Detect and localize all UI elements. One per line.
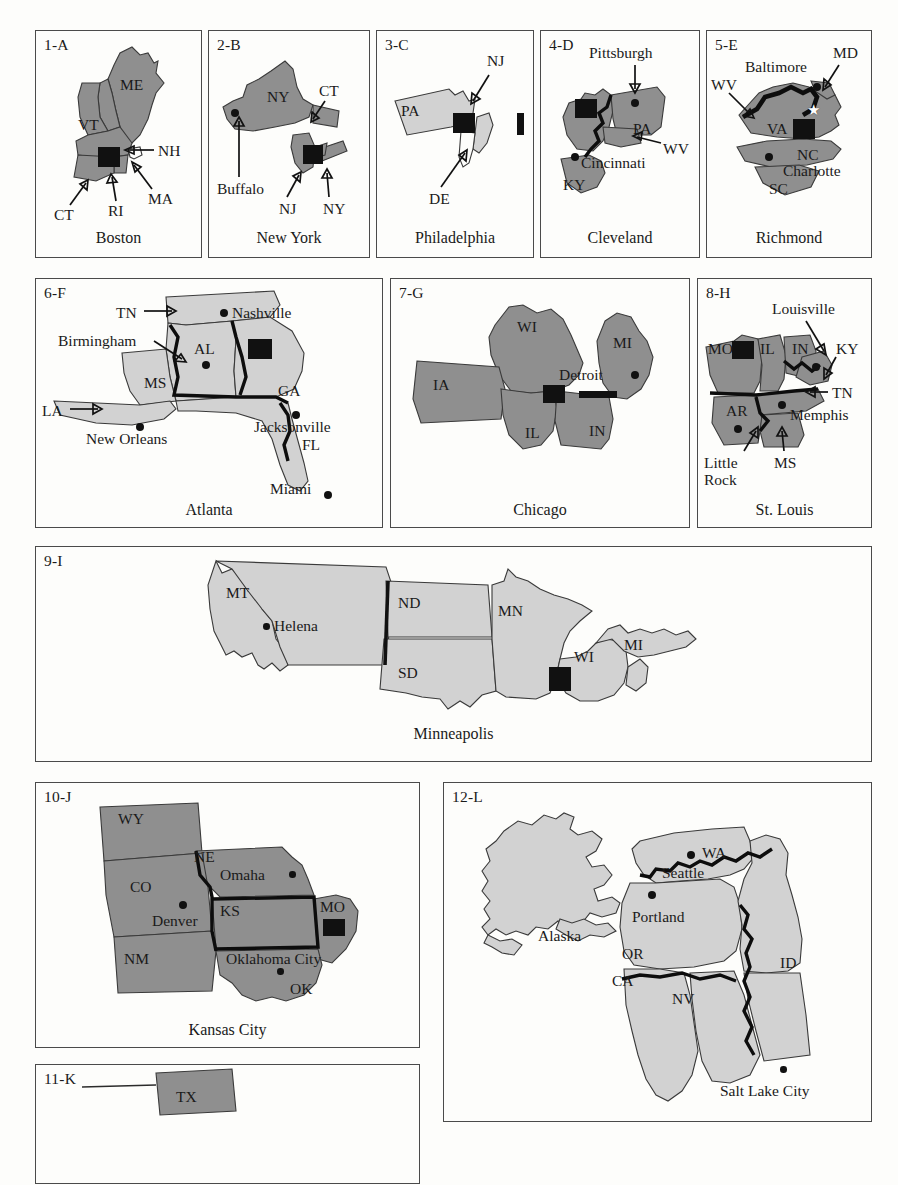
city-dot-cincinnati	[571, 153, 579, 161]
state-label-mi: MI	[624, 637, 643, 653]
state-label-nj: NJ	[487, 53, 504, 69]
state-label-mn: MN	[498, 603, 523, 619]
state-label-il: IL	[525, 425, 540, 441]
metro-marker	[303, 145, 323, 164]
metro-marker	[453, 113, 475, 133]
state-label-ky: KY	[563, 177, 585, 193]
city-label-jacksonville: Jacksonville	[254, 419, 331, 435]
state-label-sc: SC	[769, 181, 788, 197]
panel-caption: Minneapolis	[36, 725, 871, 743]
panel-12-l: 12-L	[443, 782, 872, 1122]
city-label-baltimore: Baltimore	[745, 59, 807, 75]
state-label-mt: MT	[226, 585, 249, 601]
map-graphic: TN Nashville Birmingham AL MS GA LA New …	[36, 279, 382, 527]
city-label-seattle: Seattle	[662, 865, 704, 881]
panel-9-i: 9-I MT ND MN Hele	[35, 546, 872, 762]
state-label-nm: NM	[124, 951, 149, 967]
state-label-ny-2: NY	[323, 201, 345, 217]
state-label-tx: TX	[176, 1089, 197, 1105]
city-dot-memphis	[778, 401, 786, 409]
separate-metro-marker	[517, 113, 524, 135]
city-label-charlotte: Charlotte	[783, 163, 841, 179]
state-label-nd: ND	[398, 595, 420, 611]
state-label-tn: TN	[116, 305, 137, 321]
city-label-new-orleans: New Orleans	[86, 431, 167, 447]
panel-caption: St. Louis	[698, 501, 871, 519]
state-label-ms: MS	[774, 455, 796, 471]
state-label-va: VA	[767, 121, 787, 137]
city-dot-portland	[648, 891, 656, 899]
state-label-ar: AR	[726, 403, 748, 419]
metro-marker	[793, 119, 815, 139]
map-graphic: TX	[36, 1065, 419, 1183]
state-label-wa: WA	[702, 845, 726, 861]
panel-5-e: 5-E ★ MD Baltimore WV VA NC	[706, 30, 872, 258]
state-label-ia: IA	[433, 377, 449, 393]
metro-marker	[549, 667, 571, 691]
city-dot-little-rock	[734, 425, 742, 433]
capital-star-marker: ★	[807, 103, 820, 118]
city-label-miami: Miami	[270, 481, 311, 497]
state-label-md: MD	[833, 45, 858, 61]
state-label-wi: WI	[517, 319, 537, 335]
panel-caption: Cleveland	[541, 229, 699, 247]
state-label-al: AL	[194, 341, 215, 357]
state-label-mo: MO	[708, 341, 733, 357]
state-label-wv: WV	[663, 141, 689, 157]
state-label-de: DE	[429, 191, 450, 207]
city-label-little: Little	[704, 455, 738, 471]
state-label-la: LA	[42, 403, 63, 419]
region-label-alaska: Alaska	[538, 928, 581, 944]
metro-marker	[248, 339, 272, 359]
city-label-louisville: Louisville	[772, 301, 835, 317]
state-label-ne: NE	[194, 849, 215, 865]
map-graphic: ME VT NH MA RI CT	[36, 31, 201, 257]
panel-2-b: 2-B NY CT Buffalo NJ NY	[208, 30, 370, 258]
panel-10-j: 10-J	[35, 782, 420, 1048]
state-label-vt: VT	[78, 117, 99, 133]
panel-caption: Philadelphia	[377, 229, 533, 247]
state-label-co: CO	[130, 879, 152, 895]
map-graphic: ★ MD Baltimore WV VA NC Charlotte SC	[707, 31, 871, 257]
state-label-ms: MS	[144, 375, 166, 391]
map-graphic: WI MI IA Detroit IL IN	[391, 279, 689, 527]
state-label-nj: NJ	[279, 201, 296, 217]
city-dot-helena	[263, 623, 270, 630]
state-label-in: IN	[589, 423, 605, 439]
city-label-oklahoma-city: Oklahoma City	[226, 951, 321, 967]
panel-3-c: 3-C PA NJ DE Philadelphia	[376, 30, 534, 258]
city-dot-baltimore	[813, 83, 821, 91]
state-label-nh: NH	[158, 143, 180, 159]
panel-6-f: 6-F	[35, 278, 383, 528]
city-dot-birmingham	[202, 361, 210, 369]
city-dot-louisville	[812, 363, 820, 371]
metro-marker	[98, 147, 120, 167]
metro-marker	[543, 385, 565, 403]
city-dot-seattle	[687, 851, 695, 859]
panel-caption: Kansas City	[36, 1021, 419, 1039]
state-label-mo: MO	[320, 899, 345, 915]
panel-4-d: 4-D Pittsburgh PA WV Cincinnati KY	[540, 30, 700, 258]
state-label-or: OR	[622, 946, 644, 962]
panel-caption: New York	[209, 229, 369, 247]
panel-1-a: 1-A ME VT NH MA RI	[35, 30, 202, 258]
state-label-ga: GA	[278, 383, 300, 399]
state-label-in: IN	[792, 341, 808, 357]
city-label-salt-lake-city: Salt Lake City	[720, 1083, 810, 1099]
metro-marker	[323, 919, 345, 936]
map-graphic: PA NJ DE	[377, 31, 533, 257]
state-label-ri: RI	[108, 203, 124, 219]
state-label-id: ID	[780, 955, 796, 971]
state-label-ct: CT	[319, 83, 339, 99]
city-label-portland: Portland	[632, 909, 685, 925]
panel-8-h: 8-H	[697, 278, 872, 528]
state-label-pa: PA	[633, 121, 651, 137]
state-label-fl: FL	[302, 437, 320, 453]
city-label-pittsburgh: Pittsburgh	[589, 45, 652, 61]
state-label-ny: NY	[267, 89, 289, 105]
state-label-tn: TN	[832, 385, 853, 401]
city-label-detroit: Detroit	[559, 367, 603, 383]
city-dot-miami	[324, 491, 332, 499]
panel-caption: Boston	[36, 229, 201, 247]
metro-marker	[575, 99, 597, 118]
